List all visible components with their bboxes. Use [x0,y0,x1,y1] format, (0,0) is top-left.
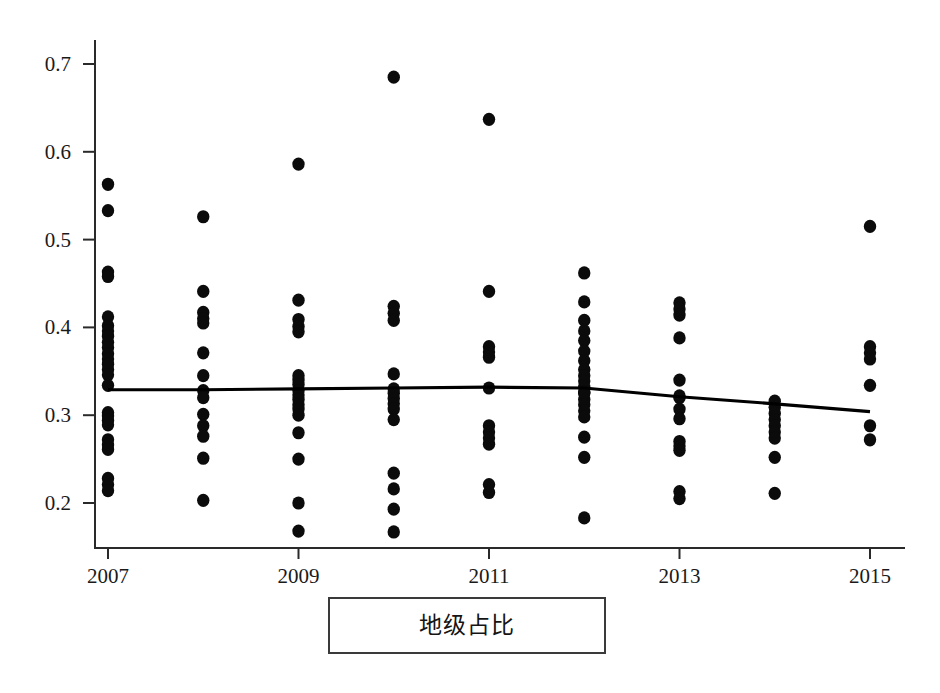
data-point [388,525,400,538]
data-point [102,443,114,456]
data-point [673,331,685,344]
data-point [102,178,114,191]
data-point [864,352,876,365]
data-point [673,373,685,386]
y-tick-label: 0.4 [45,315,72,339]
y-tick-label: 0.3 [45,403,71,427]
data-point [197,408,209,421]
data-point [388,467,400,480]
y-axis-tick-labels: 0.20.30.40.50.60.7 [45,52,72,515]
data-point [388,367,400,380]
data-point [864,433,876,446]
data-point [578,295,590,308]
data-point [673,492,685,505]
data-point [483,351,495,364]
y-tick-label: 0.5 [45,228,71,252]
data-point [102,484,114,497]
chart-container: 0.20.30.40.50.60.7 20072009201120132015 … [0,0,940,693]
data-point [769,431,781,444]
data-point [292,157,304,170]
data-point [102,418,114,431]
data-point [197,452,209,465]
data-point [864,419,876,432]
data-point [388,503,400,516]
data-point [673,309,685,322]
data-point [673,444,685,457]
data-point [578,451,590,464]
scatter-plot-svg: 0.20.30.40.50.60.7 20072009201120132015 [0,0,940,693]
data-point [578,511,590,524]
x-axis-tick-labels: 20072009201120132015 [87,564,891,588]
data-point [388,413,400,426]
x-tick-label: 2009 [278,564,320,588]
data-point [864,379,876,392]
data-point [483,113,495,126]
data-point [673,412,685,425]
x-axis-tick-marks [108,548,870,559]
data-point [769,451,781,464]
data-point [197,494,209,507]
data-point [197,391,209,404]
data-point [292,409,304,422]
x-tick-label: 2007 [87,564,129,588]
data-point [197,316,209,329]
x-tick-label: 2015 [849,564,891,588]
data-point [292,496,304,509]
data-point [292,453,304,466]
data-point [388,314,400,327]
data-point [102,204,114,217]
data-point [388,482,400,495]
y-tick-label: 0.6 [45,140,71,164]
data-point [483,486,495,499]
data-point [292,325,304,338]
y-axis-tick-marks [83,64,95,503]
data-point [388,71,400,84]
y-tick-label: 0.2 [45,491,71,515]
legend-label: 地级占比 [419,614,515,637]
axis-frame [95,40,905,548]
y-tick-label: 0.7 [45,52,71,76]
data-point [292,524,304,537]
data-point [197,430,209,443]
x-tick-label: 2011 [468,564,509,588]
legend-box: 地级占比 [328,597,606,654]
data-point [578,410,590,423]
data-point [864,220,876,233]
x-tick-label: 2013 [659,564,701,588]
data-point [578,266,590,279]
data-points-layer [102,71,876,539]
data-point [197,285,209,298]
data-point [769,487,781,500]
data-point [102,270,114,283]
data-point [292,294,304,307]
data-point [483,438,495,451]
data-point [197,210,209,223]
data-point [197,346,209,359]
data-point [292,426,304,439]
data-point [483,285,495,298]
data-point [197,369,209,382]
data-point [578,431,590,444]
